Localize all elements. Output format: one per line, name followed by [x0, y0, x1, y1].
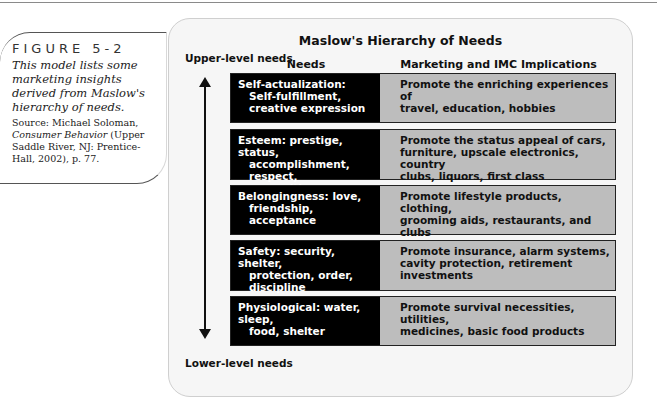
- column-header-needs: Needs: [231, 58, 381, 71]
- need-line: food, shelter: [238, 325, 380, 337]
- need-line: accomplishment, respect,: [238, 158, 380, 182]
- impl-line: medicines, basic food products: [400, 325, 615, 337]
- implication-cell: Promote insurance, alarm systems, cavity…: [380, 241, 615, 290]
- figure-source: Source: Michael Soloman, Consumer Behavi…: [12, 117, 162, 165]
- axis-line: [204, 85, 206, 330]
- top-rule: [0, 2, 657, 3]
- implication-cell: Promote survival necessities, utilities,…: [380, 297, 615, 345]
- need-line: Belongingness: love,: [238, 190, 380, 202]
- impl-line: investments: [400, 269, 615, 281]
- need-line: Self-actualization:: [238, 78, 380, 90]
- need-line: discipline: [238, 281, 380, 293]
- need-cell: Physiological: water, sleep, food, shelt…: [231, 297, 380, 345]
- diagram-panel: Maslow's Hierarchy of Needs Upper-level …: [168, 18, 633, 397]
- column-header-implications: Marketing and IMC Implications: [381, 58, 616, 71]
- diagram-title: Maslow's Hierarchy of Needs: [169, 33, 632, 48]
- figure-description: This model lists some marketing insights…: [12, 58, 162, 114]
- need-line: friendship, acceptance: [238, 202, 380, 226]
- implication-cell: Promote the enriching experiences of tra…: [380, 74, 615, 122]
- impl-line: Promote the status appeal of cars,: [400, 134, 615, 146]
- source-prefix: Source: Michael Soloman,: [12, 117, 138, 128]
- impl-line: Promote insurance, alarm systems,: [400, 245, 615, 257]
- need-line: Physiological: water, sleep,: [238, 301, 380, 325]
- need-line: protection, order,: [238, 269, 380, 281]
- implication-cell: Promote lifestyle products, clothing, gr…: [380, 186, 615, 234]
- axis-bottom-label: Lower-level needs: [185, 357, 293, 369]
- impl-line: travel, education, hobbies: [400, 102, 615, 114]
- need-line: creative expression: [238, 102, 380, 114]
- impl-line: cavity protection, retirement: [400, 257, 615, 269]
- hierarchy-row: Belongingness: love, friendship, accepta…: [230, 185, 616, 235]
- need-line: Safety: security, shelter,: [238, 245, 380, 269]
- need-cell: Self-actualization: Self-fulfillment, cr…: [231, 74, 380, 122]
- hierarchy-row: Physiological: water, sleep, food, shelt…: [230, 296, 616, 346]
- arrow-down-icon: [199, 329, 211, 339]
- hierarchy-row: Self-actualization: Self-fulfillment, cr…: [230, 73, 616, 123]
- impl-line: Promote survival necessities, utilities,: [400, 301, 615, 325]
- hierarchy-row: Esteem: prestige, status, accomplishment…: [230, 129, 616, 180]
- need-cell: Esteem: prestige, status, accomplishment…: [231, 130, 380, 179]
- need-line: Self-fulfillment,: [238, 90, 380, 102]
- impl-line: Promote the enriching experiences of: [400, 78, 615, 102]
- axis-bottom-text: Lower-level needs: [185, 357, 293, 369]
- impl-line: furniture, upscale electronics, country: [400, 146, 615, 170]
- implication-cell: Promote the status appeal of cars, furni…: [380, 130, 615, 179]
- impl-line: grooming aids, restaurants, and clubs: [400, 214, 615, 238]
- impl-line: clubs, liquors, first class: [400, 170, 615, 182]
- need-cell: Belongingness: love, friendship, accepta…: [231, 186, 380, 234]
- impl-line: Promote lifestyle products, clothing,: [400, 190, 615, 214]
- source-title: Consumer Behavior: [12, 129, 107, 140]
- need-line: Esteem: prestige, status,: [238, 134, 380, 158]
- hierarchy-row: Safety: security, shelter, protection, o…: [230, 240, 616, 291]
- need-cell: Safety: security, shelter, protection, o…: [231, 241, 380, 290]
- figure-label: FIGURE 5-2: [12, 41, 126, 56]
